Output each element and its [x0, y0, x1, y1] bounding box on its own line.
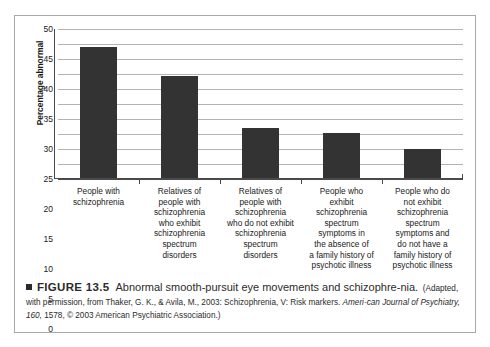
x-tick-1: [139, 179, 140, 184]
y-tick-label-45: 45: [44, 55, 53, 64]
plot-box: 05101520253035404550: [58, 29, 463, 179]
category-label-line: disorders: [139, 250, 220, 261]
category-labels-group: People withschizophreniaRelatives ofpeop…: [58, 186, 463, 276]
category-label-line: people with: [139, 197, 220, 208]
category-label-line: schizophrenia: [382, 207, 463, 218]
caption-bullet-icon: [26, 284, 32, 290]
category-label-line: psychotic illness: [382, 260, 463, 271]
category-label-3: Relatives ofpeople withschizophreniawho …: [220, 186, 301, 260]
x-tick-2: [220, 179, 221, 184]
bar-2: [161, 76, 198, 180]
x-tick-4: [382, 179, 383, 184]
category-label-line: a family history of: [301, 250, 382, 261]
figure-source-italic1: Ameri-: [343, 298, 367, 307]
figure-number: FIGURE 13.5: [37, 281, 109, 293]
category-label-line: People with: [58, 186, 139, 197]
category-label-line: schizophrenia: [220, 228, 301, 239]
category-label-1: People withschizophrenia: [58, 186, 139, 207]
category-label-line: exhibit: [301, 197, 382, 208]
category-label-line: family history of: [382, 250, 463, 261]
category-label-line: Relatives of: [220, 186, 301, 197]
category-label-line: people with: [220, 197, 301, 208]
category-label-line: People who do: [382, 186, 463, 197]
x-axis-spine: [58, 178, 463, 179]
category-label-line: schizophrenia: [139, 207, 220, 218]
category-label-line: psychotic illness: [301, 260, 382, 271]
bar-3: [242, 128, 279, 179]
figure-panel: Percentage abnormal 05101520253035404550…: [14, 15, 476, 333]
y-tick-label-20: 20: [44, 205, 53, 214]
category-label-line: who do not exhibit: [220, 218, 301, 229]
category-label-line: schizophrenia: [301, 207, 382, 218]
y-tick-label-30: 30: [44, 145, 53, 154]
y-axis-spine: [54, 29, 55, 179]
figure-title-text: Abnormal smooth-pursuit eye movements an…: [115, 281, 400, 293]
category-label-line: spectrum: [382, 218, 463, 229]
category-label-line: symptoms and: [382, 228, 463, 239]
y-tick-label-10: 10: [44, 265, 53, 274]
y-tick-label-35: 35: [44, 115, 53, 124]
category-label-line: Relatives of: [139, 186, 220, 197]
y-tick-label-0: 0: [48, 325, 53, 334]
x-tick-3: [301, 179, 302, 184]
figure-source-part2: 1578, © 2003 American Psychiatric Associ…: [42, 311, 221, 320]
bar-1: [80, 47, 117, 179]
gridline-0: 0: [58, 179, 463, 180]
category-label-line: symptoms in: [301, 228, 382, 239]
category-label-2: Relatives ofpeople withschizophreniawho …: [139, 186, 220, 260]
category-label-5: People who donot exhibitschizophreniaspe…: [382, 186, 463, 271]
category-label-4: People whoexhibitschizophreniaspectrumsy…: [301, 186, 382, 271]
y-tick-label-40: 40: [44, 85, 53, 94]
y-tick-label-15: 15: [44, 235, 53, 244]
bar-5: [404, 149, 441, 179]
category-label-line: People who: [301, 186, 382, 197]
category-label-line: schizophrenia: [58, 197, 139, 208]
category-label-line: spectrum: [139, 239, 220, 250]
category-label-line: disorders: [220, 250, 301, 261]
category-label-line: spectrum: [220, 239, 301, 250]
category-label-line: who exhibit: [139, 218, 220, 229]
y-tick-label-50: 50: [44, 25, 53, 34]
figure-title-cont: nia.: [400, 281, 418, 293]
category-label-line: do not have a: [382, 239, 463, 250]
figure-title: Abnormal smooth-pursuit eye movements an…: [109, 281, 400, 293]
chart-area: Percentage abnormal 05101520253035404550…: [15, 16, 477, 278]
category-label-line: spectrum: [301, 218, 382, 229]
x-axis-right-cap: [462, 174, 463, 179]
bar-4: [323, 133, 360, 180]
category-label-line: not exhibit: [382, 197, 463, 208]
category-label-line: schizophrenia: [139, 228, 220, 239]
bars-group: [58, 29, 463, 179]
figure-root: Percentage abnormal 05101520253035404550…: [0, 0, 490, 347]
figure-caption: FIGURE 13.5 Abnormal smooth-pursuit eye …: [26, 281, 466, 323]
category-label-line: schizophrenia: [220, 207, 301, 218]
y-tick-label-25: 25: [44, 175, 53, 184]
category-label-line: the absence of: [301, 239, 382, 250]
